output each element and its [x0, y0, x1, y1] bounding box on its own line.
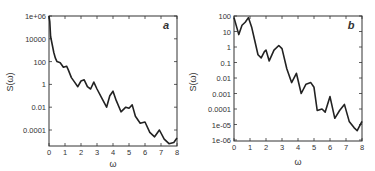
x-tick-label: 6 — [143, 148, 147, 157]
y-axis-ticks-b: 1001010.10.010.0010.00011e-051e-06 — [208, 12, 362, 145]
x-tick-label: 4 — [296, 143, 300, 152]
x-tick-label: 7 — [344, 143, 348, 152]
x-tick-label: 7 — [159, 148, 163, 157]
x-axis-ticks-b: 012345678 — [232, 16, 364, 152]
y-tick-label: 100 — [218, 12, 231, 21]
x-tick-label: 8 — [175, 148, 179, 157]
panel-label-a: a — [163, 19, 169, 31]
y-tick-label: 0.001 — [212, 90, 231, 99]
panel-a: 1e+061000010010.010.0001 012345678 a ω S… — [0, 0, 188, 171]
y-tick-label: 10000 — [25, 35, 46, 44]
y-tick-label: 100 — [33, 58, 46, 67]
data-line-b — [234, 18, 362, 131]
x-tick-label: 0 — [47, 148, 51, 157]
y-tick-label: 1 — [227, 43, 231, 52]
y-tick-label: 1e-05 — [212, 121, 231, 130]
y-axis-label-a: S(ω) — [5, 72, 15, 91]
panel-b: 1001010.10.010.0010.00011e-051e-06 01234… — [185, 0, 375, 171]
x-tick-label: 2 — [79, 148, 83, 157]
panel-label-b: b — [348, 19, 355, 31]
plot-frame-a — [49, 16, 177, 146]
y-tick-label: 1 — [42, 80, 46, 89]
x-tick-label: 2 — [264, 143, 268, 152]
x-tick-label: 1 — [248, 143, 252, 152]
x-tick-label: 3 — [280, 143, 284, 152]
data-line-a — [49, 16, 177, 144]
x-axis-ticks-a: 012345678 — [47, 16, 179, 157]
y-tick-label: 1e-06 — [212, 136, 231, 145]
x-tick-label: 8 — [360, 143, 364, 152]
y-axis-label-b: S(ω) — [188, 72, 198, 91]
x-tick-label: 5 — [127, 148, 131, 157]
x-tick-label: 5 — [312, 143, 316, 152]
x-tick-label: 0 — [232, 143, 236, 152]
y-tick-label: 0.01 — [31, 103, 46, 112]
x-tick-label: 1 — [63, 148, 67, 157]
x-tick-label: 6 — [328, 143, 332, 152]
y-tick-label: 1e+06 — [25, 12, 46, 21]
y-tick-label: 10 — [223, 28, 231, 37]
y-axis-ticks-a: 1e+061000010010.010.0001 — [23, 12, 177, 135]
x-axis-label-a: ω — [109, 159, 116, 169]
y-tick-label: 0.0001 — [208, 105, 231, 114]
y-tick-label: 0.01 — [216, 74, 231, 83]
x-tick-label: 4 — [111, 148, 115, 157]
x-axis-label-b: ω — [294, 157, 301, 167]
x-tick-label: 3 — [95, 148, 99, 157]
y-tick-label: 0.1 — [221, 59, 231, 68]
y-tick-label: 0.0001 — [23, 126, 46, 135]
